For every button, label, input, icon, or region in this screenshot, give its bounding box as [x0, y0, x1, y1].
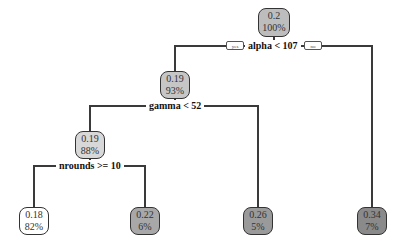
- edge-nrounds-right: [144, 165, 146, 208]
- edge-alpha-right: [371, 45, 373, 208]
- node-percent: 82%: [20, 221, 48, 233]
- split-label-gamma: gamma < 52: [146, 100, 204, 112]
- node-percent: 6%: [131, 221, 159, 233]
- split-label-alpha: alpha < 107: [245, 40, 301, 52]
- node-value: 0.19: [76, 133, 104, 145]
- tree-leaf-4: 0.34 7%: [357, 207, 387, 235]
- tree-node-gamma-yes: 0.19 88%: [75, 131, 105, 159]
- node-percent: 88%: [76, 145, 104, 157]
- no-branch-badge: no: [304, 41, 322, 50]
- node-percent: 7%: [358, 221, 386, 233]
- tree-leaf-1: 0.18 82%: [19, 207, 49, 235]
- edge-gamma-right: [257, 105, 259, 208]
- node-value: 0.26: [244, 209, 272, 221]
- tree-node-alpha-yes: 0.19 93%: [160, 71, 190, 99]
- edge-alpha-left: [174, 45, 176, 72]
- node-value: 0.18: [20, 209, 48, 221]
- node-value: 0.34: [358, 209, 386, 221]
- tree-leaf-3: 0.26 5%: [243, 207, 273, 235]
- node-percent: 100%: [259, 22, 289, 34]
- edge-gamma-left: [89, 105, 91, 133]
- node-percent: 93%: [161, 85, 189, 97]
- node-value: 0.19: [161, 73, 189, 85]
- edge-nrounds-left: [33, 165, 35, 208]
- node-percent: 5%: [244, 221, 272, 233]
- tree-leaf-2: 0.22 6%: [130, 207, 160, 235]
- yes-branch-badge: yes: [226, 41, 244, 50]
- split-label-nrounds: nrounds >= 10: [56, 160, 124, 172]
- node-value: 0.2: [259, 10, 289, 22]
- tree-node-root: 0.2 100%: [258, 8, 290, 37]
- node-value: 0.22: [131, 209, 159, 221]
